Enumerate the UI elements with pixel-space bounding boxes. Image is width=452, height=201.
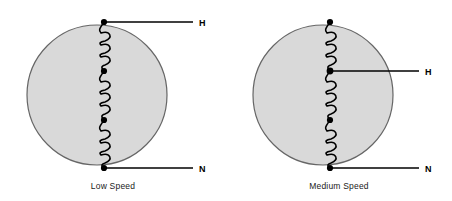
diagram-caption-low-speed: Low Speed [0,181,226,191]
junction-dot [327,165,333,171]
terminal-label-n: N [199,164,206,174]
diagram-caption-medium-speed: Medium Speed [226,181,452,191]
stator-circle [253,25,393,165]
stator-circle [27,25,167,165]
junction-dot [101,117,107,123]
terminal-label-h: H [425,67,432,77]
junction-dot [101,165,107,171]
terminal-label-n: N [425,164,432,174]
figure-canvas: H N Low Speed H N Me [0,0,452,201]
medium-speed-svg: H N [226,0,452,181]
junction-dot [101,68,107,74]
junction-dot [327,117,333,123]
diagram-low-speed: H N Low Speed [0,0,226,201]
junction-dot [101,19,107,25]
diagram-medium-speed: H N Medium Speed [226,0,452,201]
junction-dot [327,19,333,25]
low-speed-svg: H N [0,0,226,181]
junction-dot [327,68,334,75]
terminal-label-h: H [199,18,206,28]
